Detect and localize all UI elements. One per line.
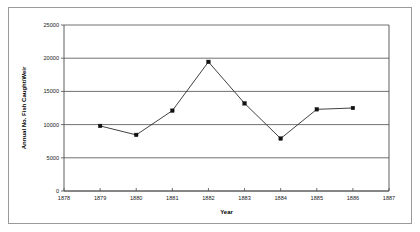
- line-chart-svg: 0500010000150002000025000 18781879188018…: [0, 0, 420, 232]
- x-tick-label-1882: 1882: [202, 195, 214, 201]
- x-tick-label-1883: 1883: [238, 195, 250, 201]
- data-point-1883: [243, 102, 247, 106]
- y-axis-title: Annual No. Fish Caught/Weir: [21, 66, 27, 149]
- x-tick-label-1884: 1884: [274, 195, 286, 201]
- data-point-1885: [315, 108, 319, 112]
- x-axis-title: Year: [220, 209, 233, 215]
- series-line-Annual No. Fish Caught/Weir: [100, 62, 353, 139]
- x-tick-label-1887: 1887: [383, 195, 395, 201]
- y-tick-label-20000: 20000: [43, 55, 59, 61]
- data-point-1880: [134, 133, 138, 137]
- data-point-1884: [279, 137, 283, 141]
- data-series-group: [98, 60, 354, 140]
- y-tick-label-0: 0: [56, 188, 59, 194]
- chart-plot-area: 0500010000150002000025000 18781879188018…: [0, 0, 420, 232]
- data-point-1879: [98, 124, 102, 128]
- y-tick-label-10000: 10000: [43, 122, 59, 128]
- y-tick-label-5000: 5000: [47, 155, 59, 161]
- x-tick-label-1886: 1886: [347, 195, 359, 201]
- chart-figure: 0500010000150002000025000 18781879188018…: [0, 0, 420, 232]
- data-point-1882: [207, 60, 211, 64]
- y-tick-label-25000: 25000: [43, 22, 59, 28]
- gridlines-group: [64, 25, 389, 191]
- x-tick-label-1885: 1885: [311, 195, 323, 201]
- data-point-1886: [351, 106, 355, 110]
- x-tick-label-1878: 1878: [58, 195, 70, 201]
- x-tick-label-1879: 1879: [94, 195, 106, 201]
- y-axis-ticks-group: 0500010000150002000025000: [43, 22, 64, 194]
- x-axis-ticks-group: 1878187918801881188218831884188518861887: [58, 188, 395, 201]
- x-tick-label-1880: 1880: [130, 195, 142, 201]
- data-point-1881: [171, 109, 175, 113]
- x-tick-label-1881: 1881: [166, 195, 178, 201]
- y-tick-label-15000: 15000: [43, 88, 59, 94]
- axis-lines-group: [64, 25, 389, 191]
